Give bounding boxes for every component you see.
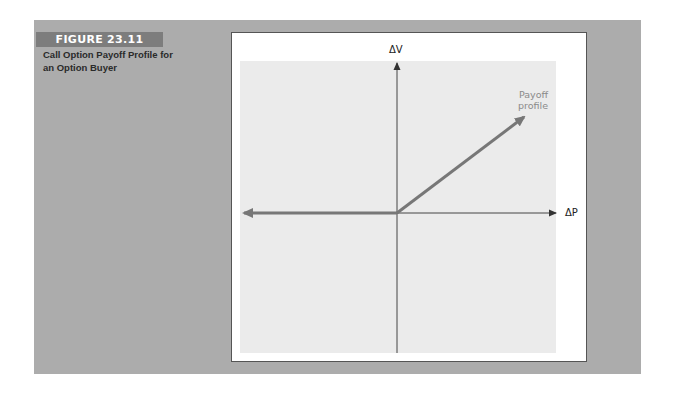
payoff-profile-label-line1: Payoff bbox=[506, 89, 548, 100]
payoff-profile-annotation: Payoff profile bbox=[506, 89, 548, 111]
payoff-profile-label-line2: profile bbox=[506, 100, 548, 111]
y-axis-label: ΔV bbox=[389, 44, 403, 55]
x-axis-label: ΔP bbox=[565, 207, 578, 218]
payoff-chart bbox=[0, 0, 673, 394]
